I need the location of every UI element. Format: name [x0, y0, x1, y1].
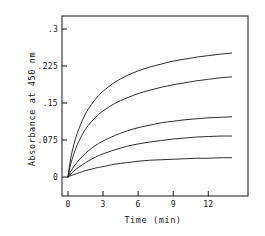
- x-tick-label: 6: [136, 200, 141, 209]
- y-tick-label: .075: [38, 136, 58, 145]
- x-axis-title: Time (min): [98, 215, 208, 225]
- x-tick-label: 3: [101, 200, 106, 209]
- y-tick-label: 0: [53, 173, 58, 182]
- y-axis-title: Absorbance at 450 nm: [27, 33, 37, 185]
- y-axis-tick-labels: 0.075.15.225.3: [38, 25, 58, 182]
- x-tick-label: 12: [203, 200, 213, 209]
- x-axis-tick-labels: 036912: [65, 200, 213, 209]
- y-tick-label: .3: [48, 25, 58, 34]
- x-tick-label: 0: [65, 200, 70, 209]
- x-tick-label: 9: [171, 200, 176, 209]
- figure: 0.075.15.225.3 036912 Absorbance at 450 …: [0, 0, 265, 236]
- y-tick-label: .15: [43, 99, 58, 108]
- y-tick-label: .225: [38, 62, 58, 71]
- chart-canvas: 0.075.15.225.3 036912: [0, 0, 265, 236]
